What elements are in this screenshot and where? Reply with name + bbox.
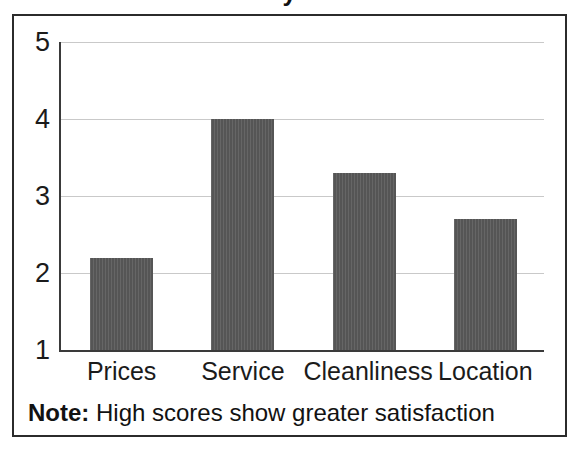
chart-note: Note: High scores show greater satisfact… <box>28 394 553 434</box>
x-tick-label-location: Location <box>425 354 546 388</box>
bar-prices <box>90 258 153 350</box>
bars-layer <box>14 16 565 376</box>
bar-cleanliness <box>333 173 396 350</box>
note-body: High scores show greater satisfaction <box>89 399 495 426</box>
chart-title-fragment: y <box>0 0 579 7</box>
plot-region: 12345 PricesServiceCleanlinessLocation <box>14 16 565 376</box>
figure-frame: 12345 PricesServiceCleanlinessLocation N… <box>12 14 567 437</box>
x-tick-label-prices: Prices <box>61 354 182 388</box>
x-axis-tick-labels: PricesServiceCleanlinessLocation <box>14 354 565 392</box>
bar-service <box>211 119 274 350</box>
x-tick-label-cleanliness: Cleanliness <box>304 354 425 388</box>
x-tick-label-service: Service <box>182 354 303 388</box>
bar-location <box>454 219 517 350</box>
note-label: Note: <box>28 399 89 426</box>
